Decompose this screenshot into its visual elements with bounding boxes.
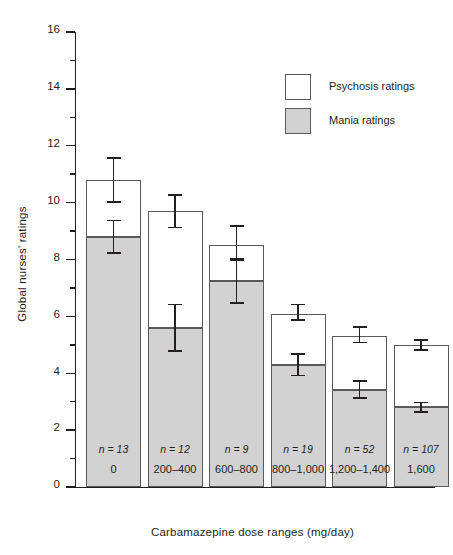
bar-n-annotation: n = 19 [271,443,326,455]
y-tick-10: 10 [66,202,75,203]
error-bar-cap-top [291,353,305,355]
error-bar-total-600–800 [209,225,264,259]
error-bar-total-200–400 [148,194,203,228]
error-bar-cap-top [168,194,182,196]
error-bar-cap-bottom [168,350,182,352]
legend-label-mania: Mania ratings [329,114,395,126]
error-bar-cap-top [107,157,121,159]
bar-segment-mania [209,281,264,487]
y-tick-14: 14 [66,88,75,89]
y-tick-minor [70,60,75,61]
bar-segment-psychosis [394,345,449,408]
y-tick-minor [70,230,75,231]
error-bar-mania-1,200–1,400 [332,380,387,398]
y-tick-16: 16 [66,31,75,32]
bar-n-annotation: n = 52 [332,443,387,455]
x-axis-line [75,487,435,488]
y-tick-label: 16 [47,23,60,35]
y-tick-0: 0 [66,486,75,487]
y-tick-label: 8 [54,251,60,263]
y-axis-line [75,32,76,487]
error-bar-stem [113,220,114,254]
y-tick-label: 6 [54,308,60,320]
y-tick-4: 4 [66,373,75,374]
error-bar-cap-top [414,339,428,341]
plot-area: 0246810121416 n = 13n = 12n = 9n = 19n =… [75,32,435,487]
error-bar-cap-top [291,304,305,306]
error-bar-mania-200–400 [148,304,203,352]
bar-n-annotation: n = 13 [86,443,141,455]
error-bar-cap-bottom [353,342,367,344]
error-bar-mania-1,600 [394,402,449,413]
x-tick-label-1,600: 1,600 [371,463,453,475]
error-bar-mania-600–800 [209,260,264,304]
legend-label-psychosis: Psychosis ratings [329,80,415,92]
x-axis-title: Carbamazepine dose ranges (mg/day) [60,526,445,538]
error-bar-total-1,600 [394,339,449,350]
y-tick-minor [70,287,75,288]
y-tick-minor [70,117,75,118]
bar-n-annotation: n = 9 [209,443,264,455]
y-tick-label: 0 [54,478,60,490]
error-bar-cap-bottom [168,227,182,229]
error-bar-cap-top [414,402,428,404]
error-bar-total-800–1,000 [271,304,326,321]
error-bar-cap-bottom [107,252,121,254]
error-bar-cap-bottom [291,319,305,321]
error-bar-cap-top [230,225,244,227]
error-bar-mania-800–1,000 [271,353,326,376]
legend-swatch-mania-icon [285,108,311,134]
error-bar-cap-top [353,326,367,328]
y-tick-label: 2 [54,421,60,433]
error-bar-cap-top [168,304,182,306]
error-bar-stem [113,157,114,203]
error-bar-mania-0 [86,220,141,254]
bar-n-annotation: n = 12 [148,443,203,455]
y-tick-minor [70,344,75,345]
error-bar-cap-bottom [414,349,428,351]
error-bar-cap-top [230,260,244,262]
error-bar-cap-bottom [107,201,121,203]
error-bar-cap-bottom [291,375,305,377]
y-tick-minor [70,401,75,402]
error-bar-stem [359,380,360,398]
y-tick-12: 12 [66,145,75,146]
error-bar-cap-top [353,380,367,382]
y-tick-minor [70,173,75,174]
y-tick-label: 12 [47,137,60,149]
y-tick-8: 8 [66,259,75,260]
y-tick-6: 6 [66,316,75,317]
error-bar-stem [236,260,237,304]
error-bar-stem [174,304,175,352]
y-tick-label: 4 [54,365,60,377]
error-bar-total-0 [86,157,141,203]
error-bar-cap-top [107,220,121,222]
y-tick-minor [70,458,75,459]
error-bar-stem [236,225,237,259]
error-bar-total-1,200–1,400 [332,326,387,343]
y-tick-label: 14 [47,80,60,92]
y-tick-2: 2 [66,429,75,430]
legend-swatch-psychosis-icon [285,74,311,100]
error-bar-stem [297,353,298,376]
error-bar-cap-bottom [414,411,428,413]
bar-n-annotation: n = 107 [394,443,449,455]
y-axis-title: Global nurses' ratings [16,164,28,364]
bar-800–1,000: n = 19 [271,314,326,487]
y-tick-label: 10 [47,194,60,206]
error-bar-stem [174,194,175,228]
error-bar-cap-bottom [353,397,367,399]
error-bar-cap-bottom [230,302,244,304]
